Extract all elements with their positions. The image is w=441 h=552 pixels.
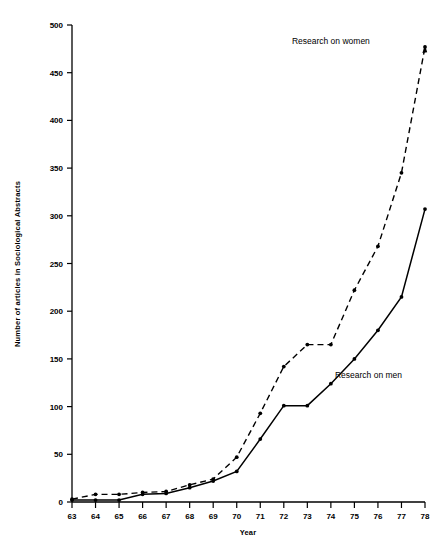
y-tick-label: 400 — [50, 116, 64, 125]
data-point — [188, 483, 192, 487]
y-tick-label: 50 — [54, 450, 63, 459]
y-axis-title: Number of articles in Sociological Abstr… — [13, 181, 22, 347]
x-tick-label: 77 — [397, 512, 406, 521]
y-tick-label: 250 — [50, 260, 64, 269]
data-point — [94, 498, 98, 502]
data-point — [305, 343, 309, 347]
chart-background — [0, 0, 441, 552]
data-point — [141, 491, 145, 495]
data-point — [117, 492, 121, 496]
x-tick-label: 76 — [373, 512, 382, 521]
x-tick-label: 72 — [279, 512, 288, 521]
data-point — [329, 343, 333, 347]
x-tick-label: 75 — [350, 512, 359, 521]
data-point — [70, 497, 74, 501]
y-tick-label: 200 — [50, 307, 64, 316]
data-point — [94, 492, 98, 496]
x-tick-label: 63 — [68, 512, 77, 521]
data-point — [400, 295, 404, 299]
x-tick-label: 78 — [421, 512, 430, 521]
plot-annotation-label: Research on men — [335, 370, 402, 380]
x-tick-label: 64 — [91, 512, 100, 521]
data-point — [282, 404, 286, 408]
x-tick-label: 73 — [303, 512, 312, 521]
y-tick-label: 300 — [50, 212, 64, 221]
y-tick-label: 350 — [50, 164, 64, 173]
line-chart: 050100150200250300350400450500 636465666… — [0, 0, 441, 552]
data-point — [423, 207, 427, 211]
y-tick-label: 100 — [50, 403, 64, 412]
y-tick-label: 450 — [50, 69, 64, 78]
x-tick-label: 69 — [209, 512, 218, 521]
data-point — [235, 455, 239, 459]
data-point — [353, 357, 357, 361]
y-tick-label: 500 — [50, 21, 64, 30]
x-tick-label: 67 — [162, 512, 171, 521]
x-tick-label: 65 — [115, 512, 124, 521]
data-point — [211, 477, 215, 481]
x-tick-label: 66 — [138, 512, 147, 521]
data-point — [282, 365, 286, 369]
data-point — [376, 328, 380, 332]
chart-figure: 050100150200250300350400450500 636465666… — [0, 0, 441, 552]
data-point — [329, 382, 333, 386]
y-tick-label: 150 — [50, 355, 64, 364]
data-point — [235, 470, 239, 474]
data-point — [400, 171, 404, 175]
plot-annotation-label: Research on women — [292, 36, 370, 46]
x-tick-label: 70 — [232, 512, 241, 521]
data-point — [376, 244, 380, 248]
x-axis-title: Year — [240, 528, 257, 537]
data-point — [164, 490, 168, 494]
x-tick-label: 71 — [256, 512, 265, 521]
data-point — [305, 404, 309, 408]
x-tick-label: 74 — [326, 512, 335, 521]
data-point — [258, 437, 262, 441]
x-tick-label: 68 — [185, 512, 194, 521]
data-point — [353, 288, 357, 292]
data-point — [117, 498, 121, 502]
y-tick-label: 0 — [59, 498, 64, 507]
data-point — [258, 411, 262, 415]
